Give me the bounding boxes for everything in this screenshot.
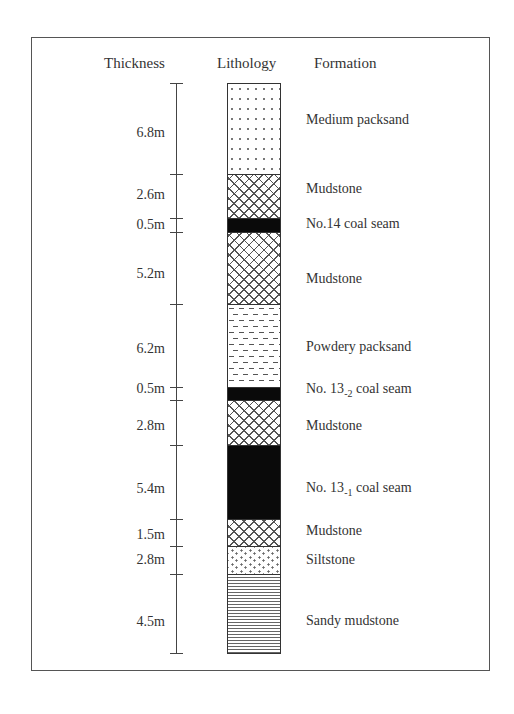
formation-suffix: coal seam: [352, 480, 411, 495]
scale-tick: [170, 546, 183, 547]
formation-name: Siltstone: [306, 552, 355, 567]
lithology-layer-crosshatch: [228, 401, 280, 446]
dash-row: [233, 314, 280, 315]
dash-row: [233, 338, 280, 339]
formation-name: Mudstone: [306, 181, 362, 196]
thickness-label: 4.5m: [105, 614, 165, 630]
lithology-column: [227, 83, 281, 654]
dash-row: [233, 350, 280, 351]
scale-tick: [170, 445, 183, 446]
lithology-layer-coal: [228, 219, 280, 233]
dash-row: [233, 326, 280, 327]
lithology-layer-dots: [228, 84, 280, 175]
thickness-label: 0.5m: [105, 381, 165, 397]
formation-label: Mudstone: [306, 523, 362, 539]
lithology-layer-crosshatch: [228, 233, 280, 305]
formation-label: Mudstone: [306, 418, 362, 434]
scale-tick: [170, 574, 183, 575]
formation-name: Medium packsand: [306, 112, 409, 127]
scale-tick: [170, 653, 183, 654]
dash-row: [229, 308, 280, 309]
formation-label: Siltstone: [306, 552, 355, 568]
thickness-label: 5.2m: [105, 266, 165, 282]
formation-name: No.14 coal seam: [306, 216, 400, 231]
dash-row: [229, 344, 280, 345]
dash-row: [233, 362, 280, 363]
thickness-label: 2.6m: [105, 187, 165, 203]
thickness-label: 0.5m: [105, 217, 165, 233]
header-thickness: Thickness: [104, 55, 165, 72]
dash-row: [229, 356, 280, 357]
lithology-layer-crosshatch: [228, 175, 280, 219]
formation-label: No.14 coal seam: [306, 216, 400, 232]
thickness-label: 2.8m: [105, 418, 165, 434]
lithology-layer-hlines: [228, 575, 280, 654]
formation-label: Medium packsand: [306, 112, 409, 128]
header-formation: Formation: [314, 55, 377, 72]
formation-label: Powdery packsand: [306, 339, 411, 355]
scale-tick: [170, 83, 183, 84]
formation-name: Mudstone: [306, 418, 362, 433]
formation-label: Mudstone: [306, 271, 362, 287]
formation-name: Powdery packsand: [306, 339, 411, 354]
formation-label: No. 13-2 coal seam: [306, 381, 412, 399]
formation-name: Sandy mudstone: [306, 613, 399, 628]
thickness-label: 1.5m: [105, 527, 165, 543]
lithology-layer-crosshatch: [228, 520, 280, 547]
dash-row: [229, 368, 280, 369]
formation-name: No. 13: [306, 480, 344, 495]
thickness-label: 6.8m: [105, 125, 165, 141]
formation-name: Mudstone: [306, 523, 362, 538]
formation-label: No. 13-1 coal seam: [306, 480, 412, 498]
formation-name: No. 13: [306, 381, 344, 396]
formation-label: Mudstone: [306, 181, 362, 197]
dash-row: [229, 320, 280, 321]
scale-tick: [170, 400, 183, 401]
thickness-label: 5.4m: [105, 481, 165, 497]
dash-row: [229, 380, 280, 381]
lithology-layer-dashes: [228, 305, 280, 388]
scale-tick: [170, 387, 183, 388]
dash-row: [233, 374, 280, 375]
thickness-label: 6.2m: [105, 341, 165, 357]
formation-suffix: coal seam: [352, 381, 411, 396]
formation-name: Mudstone: [306, 271, 362, 286]
dash-row: [229, 332, 280, 333]
header-lithology: Lithology: [217, 55, 276, 72]
formation-label: Sandy mudstone: [306, 613, 399, 629]
lithology-layer-coal: [228, 446, 280, 520]
scale-tick: [170, 174, 183, 175]
lithology-layer-siltstone: [228, 547, 280, 575]
scale-tick: [170, 304, 183, 305]
thickness-scale-line: [176, 83, 177, 654]
lithology-layer-coal: [228, 388, 280, 401]
thickness-label: 2.8m: [105, 552, 165, 568]
scale-tick: [170, 232, 183, 233]
scale-tick: [170, 519, 183, 520]
scale-tick: [170, 218, 183, 219]
